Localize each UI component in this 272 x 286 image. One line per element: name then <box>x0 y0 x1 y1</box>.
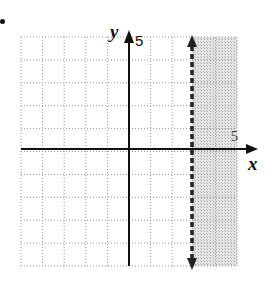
inequality-graph: y x 5 5 <box>0 0 272 286</box>
y-tick-label-5: 5 <box>135 32 143 49</box>
y-axis-label: y <box>108 21 119 42</box>
x-axis-label: x <box>247 153 258 174</box>
x-tick-label-5: 5 <box>231 129 238 144</box>
